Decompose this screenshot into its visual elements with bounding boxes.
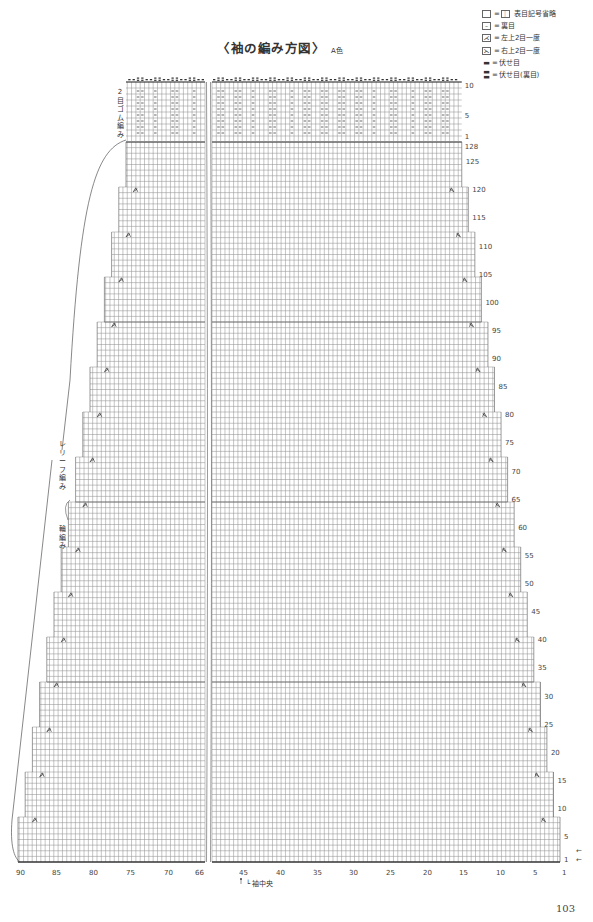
column-tick: 85 — [52, 869, 61, 877]
column-tick: 1 — [562, 869, 566, 877]
right-decrease-icon — [522, 683, 526, 687]
column-tick: 35 — [313, 869, 322, 877]
rib-section — [126, 78, 462, 143]
left-decrease-icon — [133, 188, 138, 192]
row-tick: 110 — [479, 243, 492, 251]
column-tick: 45 — [239, 869, 248, 877]
row-tick: 115 — [472, 214, 485, 222]
column-tick: 75 — [126, 869, 135, 877]
row-tick: 25 — [544, 721, 553, 729]
right-decrease-icon — [463, 278, 467, 282]
row-tick: 10 — [557, 805, 566, 813]
row-tick: 1 — [564, 856, 568, 864]
row-tick: 50 — [525, 580, 534, 588]
left-decrease-icon — [83, 503, 88, 507]
column-tick: 5 — [533, 869, 537, 877]
relief-bracket-lower — [11, 460, 52, 862]
row-tick: 100 — [485, 299, 498, 307]
row-tick: 60 — [518, 524, 527, 532]
rib-row-tick: 1 — [465, 133, 469, 141]
column-tick: 66 — [195, 869, 204, 877]
grid — [18, 82, 560, 862]
row-tick: 30 — [544, 693, 553, 701]
rib-row-tick: 10 — [465, 82, 474, 90]
row-tick: 40 — [538, 636, 547, 644]
column-tick: 80 — [89, 869, 98, 877]
row-tick: 35 — [538, 664, 547, 672]
left-decrease-icon — [68, 593, 73, 597]
rib-row-tick: 5 — [465, 112, 469, 120]
right-decrease-icon — [489, 458, 493, 462]
right-decrease-icon — [542, 818, 546, 822]
column-tick: 30 — [349, 869, 358, 877]
row-tick: 55 — [525, 552, 534, 560]
column-tick: 20 — [423, 869, 432, 877]
direction-arrow-icon: ← — [576, 856, 582, 864]
row-tick: 125 — [466, 158, 479, 166]
relief-bracket — [62, 140, 126, 450]
direction-arrow-icon: ← — [576, 847, 582, 855]
row-tick: 85 — [499, 383, 508, 391]
row-tick: 75 — [505, 439, 514, 447]
row-tick: 45 — [531, 608, 540, 616]
row-tick: 120 — [472, 186, 485, 194]
row-tick: 90 — [492, 355, 501, 363]
row-tick: 128 — [465, 143, 478, 151]
left-decrease-icon — [61, 638, 66, 642]
right-decrease-icon — [509, 593, 513, 597]
right-decrease-icon — [535, 773, 539, 777]
right-decrease-icon — [496, 503, 500, 507]
left-decrease-icon — [112, 323, 117, 327]
row-tick: 95 — [492, 327, 501, 335]
row-tick: 70 — [512, 468, 521, 476]
left-decrease-icon — [126, 233, 131, 237]
left-decrease-icon — [40, 773, 45, 777]
left-decrease-icon — [47, 728, 52, 732]
row-tick: 65 — [512, 496, 521, 504]
right-decrease-icon — [450, 188, 454, 192]
column-tick: 70 — [164, 869, 173, 877]
right-decrease-icon — [469, 323, 473, 327]
column-tick: 90 — [16, 869, 25, 877]
right-decrease-icon — [483, 413, 487, 417]
column-tick: 40 — [276, 869, 285, 877]
left-decrease-icon — [90, 458, 95, 462]
right-decrease-icon — [476, 368, 480, 372]
row-tick: 80 — [505, 411, 514, 419]
left-decrease-icon — [104, 368, 109, 372]
row-tick: 105 — [479, 271, 492, 279]
column-tick: 15 — [459, 869, 468, 877]
row-tick: 20 — [551, 749, 560, 757]
column-tick: 25 — [386, 869, 395, 877]
row-tick: 5 — [564, 833, 568, 841]
row-tick: 15 — [557, 777, 566, 785]
column-tick: 10 — [496, 869, 505, 877]
knitting-chart: 1510152025303540455055606570758085909510… — [0, 0, 593, 922]
